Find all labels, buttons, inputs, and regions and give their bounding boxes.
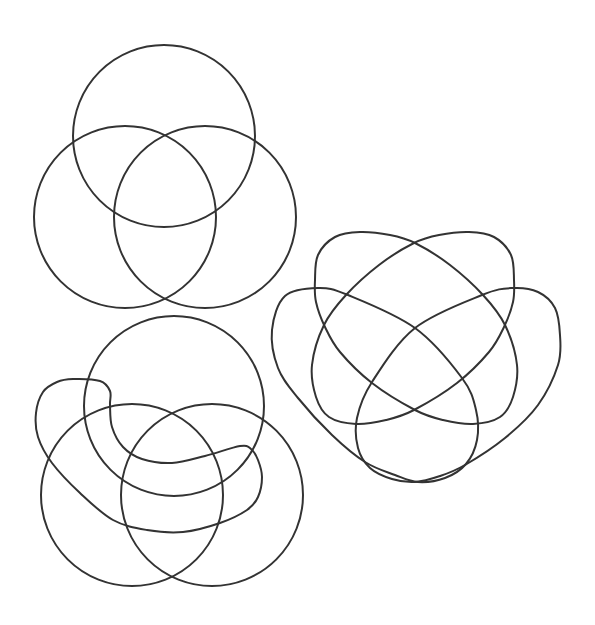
set-bean-shape	[36, 379, 262, 533]
venn-canvas	[0, 0, 595, 625]
set-upper-right-ellipse	[312, 232, 515, 424]
circles-and-bean-venn-diagram	[36, 316, 303, 586]
set-left-circle	[41, 404, 223, 586]
four-ellipse-venn-diagram	[272, 232, 561, 482]
set-right-circle	[121, 404, 303, 586]
set-right-outer-ellipse	[356, 288, 561, 482]
set-left-circle	[34, 126, 216, 308]
three-circle-venn-diagram	[34, 45, 296, 308]
